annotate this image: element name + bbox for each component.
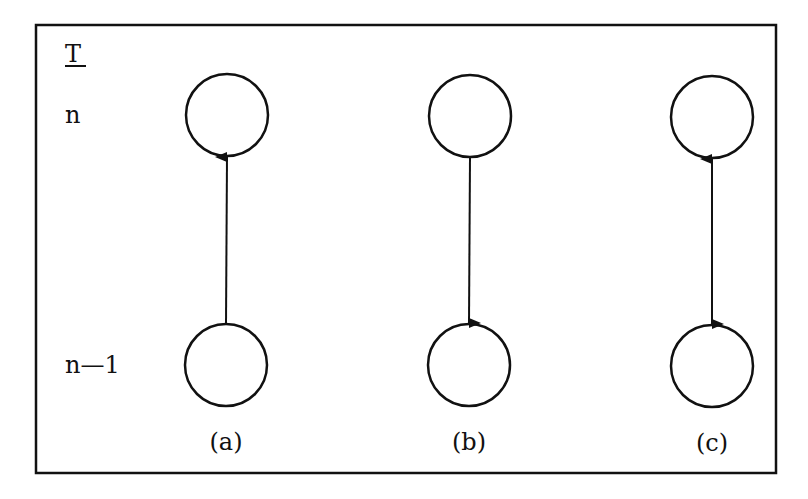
diagram-canvas: T n n—1 (a) (b) (c): [0, 0, 808, 499]
node-b-top: [429, 75, 511, 157]
arrow-up-icon: [226, 157, 227, 324]
level-label-n-minus-1: n—1: [65, 351, 120, 379]
level-label-n: n: [65, 101, 80, 129]
node-c-top: [671, 76, 753, 158]
arrow-down-icon: [469, 157, 470, 323]
node-a-top: [186, 74, 268, 156]
node-a-bottom: [185, 324, 267, 406]
caption-b: (b): [452, 428, 486, 456]
caption-a: (a): [209, 428, 242, 456]
diagram-frame: [36, 25, 776, 473]
node-c-bottom: [671, 325, 753, 407]
panel-a: (a): [185, 74, 268, 456]
axis-label-t: T: [65, 40, 81, 68]
panel-b: (b): [428, 75, 511, 456]
node-b-bottom: [428, 324, 510, 406]
panel-c: (c): [671, 76, 753, 457]
caption-c: (c): [696, 429, 728, 457]
